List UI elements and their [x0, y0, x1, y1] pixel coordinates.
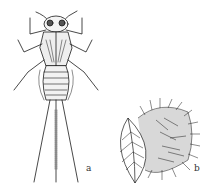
nymph-drawing	[14, 11, 98, 182]
illustration-canvas	[0, 0, 206, 190]
panel-label-a: a	[86, 164, 91, 173]
illustration-figure: a b	[0, 0, 206, 190]
panel-label-b: b	[194, 164, 200, 173]
leaf-drawing	[120, 98, 200, 183]
